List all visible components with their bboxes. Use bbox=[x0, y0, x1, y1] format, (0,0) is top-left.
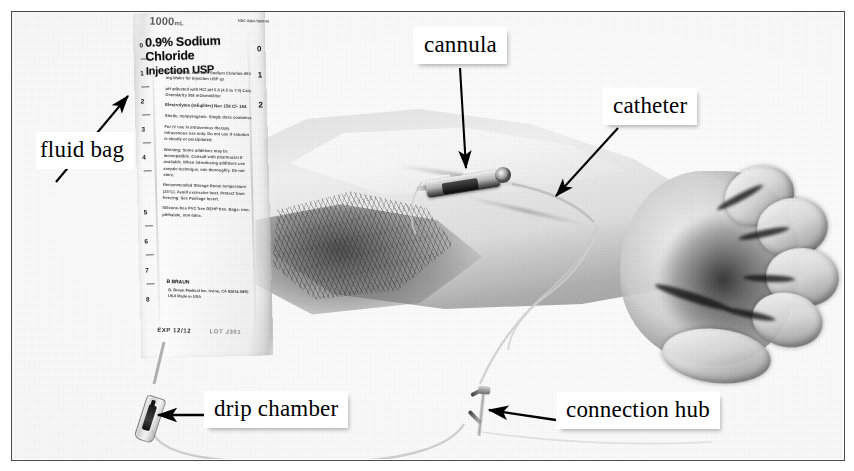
bag-body-text: Each 100 mL contains Sodium Chloride 900… bbox=[162, 69, 254, 224]
hub-stem bbox=[477, 392, 487, 436]
label-catheter: catheter bbox=[603, 88, 697, 125]
figure-root: 1000mL NDC 0264-7800-00 0.9% Sodium Chlo… bbox=[0, 0, 854, 471]
bag-ndc-code: NDC 0264-7800-00 bbox=[238, 19, 269, 25]
connection-hub-device bbox=[464, 383, 500, 442]
label-fluid-bag: fluid bag bbox=[36, 132, 134, 169]
bag-volume: 1000mL bbox=[149, 15, 184, 28]
tubing-drip-to-hub bbox=[152, 424, 464, 459]
label-connection-hub: connection hub bbox=[556, 392, 720, 429]
hand bbox=[620, 162, 843, 387]
label-cannula: cannula bbox=[414, 27, 507, 64]
fluid-bag: 1000mL NDC 0264-7800-00 0.9% Sodium Chlo… bbox=[133, 12, 274, 359]
bag-expiry: EXP 12/12 LOT J301 bbox=[157, 327, 241, 335]
hub-cap bbox=[478, 386, 491, 395]
label-drip-chamber: drip chamber bbox=[204, 391, 348, 428]
fluid-bag-printing: 1000mL NDC 0264-7800-00 0.9% Sodium Chlo… bbox=[133, 12, 274, 359]
bag-brand-address: B. Braun Medical Inc. Irvine, CA 92614-5… bbox=[168, 287, 252, 301]
tubing-ground-shadow bbox=[482, 432, 712, 444]
drip-chamber-device bbox=[133, 394, 166, 444]
bag-brand: B BRAUN bbox=[166, 273, 189, 286]
